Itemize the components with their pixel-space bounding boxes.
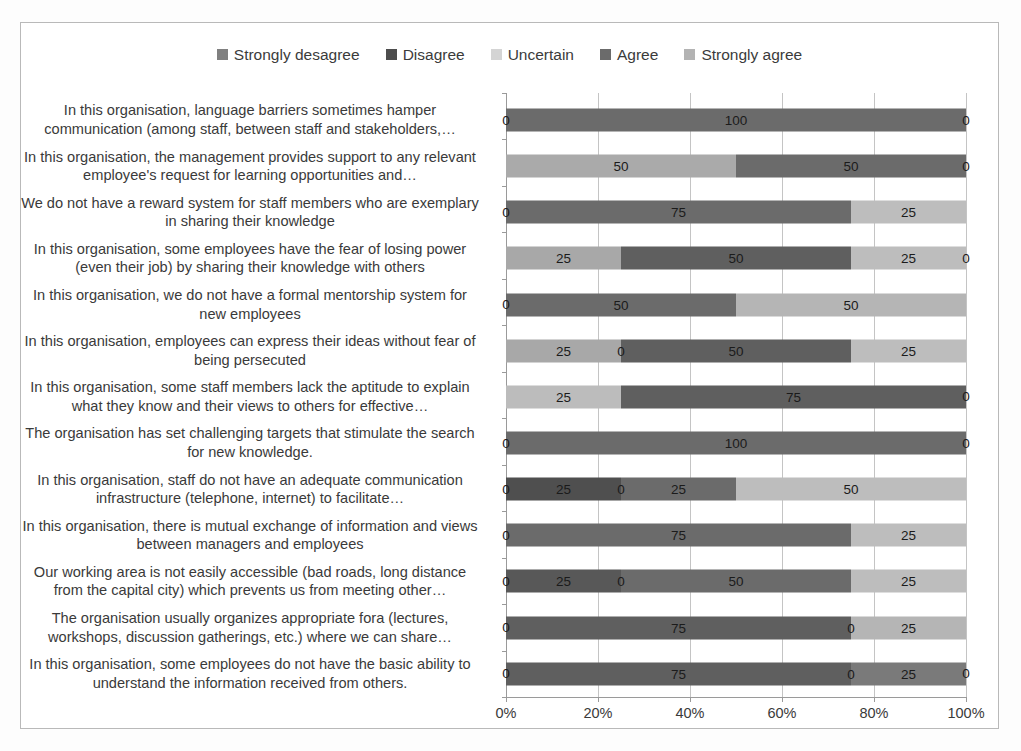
bar-segment[interactable]: 75 [506, 616, 851, 639]
bar-segment[interactable]: 25 [851, 616, 966, 639]
bar-segment[interactable]: 75 [506, 201, 851, 224]
bar-segment[interactable]: 75 [621, 385, 966, 408]
x-tick-label: 100% [947, 705, 984, 721]
legend-swatch-icon [386, 49, 397, 60]
bar-segment[interactable]: 50 [736, 478, 966, 501]
legend-item-2[interactable]: Uncertain [491, 47, 574, 63]
category-label: In this organisation, some staff members… [21, 378, 487, 415]
bar-area: 25025500 [506, 466, 966, 512]
segment-value-label: 0 [847, 620, 855, 635]
bar-area: 75250 [506, 189, 966, 235]
category-label: The organisation has set challenging tar… [21, 424, 487, 461]
bar-segment[interactable]: 50 [621, 570, 851, 593]
stacked-bar[interactable]: 25025500 [506, 478, 966, 501]
segment-value-label: 25 [671, 482, 686, 497]
bar-segment[interactable]: 25 [506, 247, 621, 270]
bar-segment[interactable]: 25 [851, 339, 966, 362]
bar-segment[interactable]: 75 [506, 524, 851, 547]
legend-item-4[interactable]: Strongly agree [684, 47, 802, 63]
chart-legend: Strongly desagreeDisagreeUncertainAgreeS… [21, 47, 998, 63]
bar-segment[interactable]: 25 [621, 478, 736, 501]
segment-value-label: 0 [617, 574, 625, 589]
segment-value-label: 75 [786, 389, 801, 404]
stacked-bar[interactable]: 2550250 [506, 247, 966, 270]
bar-segment[interactable]: 25 [851, 201, 966, 224]
bar-area: 10000 [506, 97, 966, 143]
bar-segment[interactable]: 25 [506, 478, 621, 501]
x-tick [690, 697, 691, 702]
segment-value-label: 50 [728, 251, 743, 266]
stacked-bar[interactable]: 75250 [506, 524, 966, 547]
plot-area: In this organisation, language barriers … [21, 85, 998, 728]
category-label: In this organisation, the management pro… [21, 148, 487, 185]
bar-segment[interactable]: 25 [851, 247, 966, 270]
stacked-bar[interactable]: 75250 [506, 201, 966, 224]
category-label: In this organisation, we do not have a f… [21, 286, 487, 323]
bar-segment[interactable]: 100 [506, 109, 966, 132]
bar-segment[interactable]: 50 [621, 247, 851, 270]
stacked-bar[interactable]: 10000 [506, 109, 966, 132]
segment-value-label: 0 [617, 343, 625, 358]
bar-segment[interactable]: 50 [506, 293, 736, 316]
chart-row: In this organisation, language barriers … [21, 97, 998, 143]
x-axis [506, 697, 966, 698]
bar-segment[interactable]: 25 [506, 570, 621, 593]
bar-left-cap-label: 0 [502, 482, 510, 497]
bar-segment[interactable]: 25 [506, 339, 621, 362]
legend-label: Strongly desagree [234, 47, 360, 63]
bar-segment[interactable]: 50 [736, 155, 966, 178]
bar-right-cap-label: 0 [962, 251, 970, 266]
bar-left-cap-label: 0 [502, 620, 510, 635]
bar-right-cap-label: 0 [962, 666, 970, 681]
segment-value-label: 75 [671, 666, 686, 681]
stacked-bar[interactable]: 7502500 [506, 662, 966, 685]
bar-right-cap-label: 0 [962, 159, 970, 174]
bar-left-cap-label: 0 [502, 528, 510, 543]
legend-swatch-icon [217, 49, 228, 60]
segment-value-label: 25 [901, 528, 916, 543]
x-tick [966, 697, 967, 702]
category-label: In this organisation, there is mutual ex… [21, 517, 487, 554]
stacked-bar[interactable]: 25750 [506, 385, 966, 408]
bar-left-cap-label: 0 [502, 297, 510, 312]
bar-segment[interactable]: 50 [621, 339, 851, 362]
bar-right-cap-label: 0 [962, 113, 970, 128]
segment-value-label: 25 [901, 574, 916, 589]
segment-value-label: 0 [617, 482, 625, 497]
segment-value-label: 25 [901, 205, 916, 220]
bar-segment[interactable]: 50 [736, 293, 966, 316]
bar-segment[interactable]: 50 [506, 155, 736, 178]
legend-item-0[interactable]: Strongly desagree [217, 47, 360, 63]
stacked-bar[interactable]: 50500 [506, 293, 966, 316]
segment-value-label: 100 [725, 113, 748, 128]
legend-label: Uncertain [508, 47, 574, 63]
bar-area: 7502500 [506, 651, 966, 697]
legend-item-1[interactable]: Disagree [386, 47, 465, 63]
segment-value-label: 50 [843, 482, 858, 497]
stacked-bar[interactable]: 25050250 [506, 570, 966, 593]
segment-value-label: 25 [556, 482, 571, 497]
stacked-bar[interactable]: 50500 [506, 155, 966, 178]
bar-segment[interactable]: 75 [506, 662, 851, 685]
bar-rows: In this organisation, language barriers … [21, 97, 998, 697]
stacked-bar[interactable]: 750250 [506, 616, 966, 639]
bar-left-cap-label: 0 [502, 666, 510, 681]
stacked-bar[interactable]: 2505025 [506, 339, 966, 362]
bar-segment[interactable]: 25 [506, 385, 621, 408]
bar-segment[interactable]: 100 [506, 432, 966, 455]
segment-value-label: 50 [728, 574, 743, 589]
segment-value-label: 25 [901, 666, 916, 681]
legend-swatch-icon [600, 49, 611, 60]
segment-value-label: 50 [613, 297, 628, 312]
bar-segment[interactable]: 25 [851, 524, 966, 547]
bar-segment[interactable]: 25 [851, 570, 966, 593]
segment-value-label: 50 [728, 343, 743, 358]
chart-row: Our working area is not easily accessibl… [21, 558, 998, 604]
bar-area: 2550250 [506, 235, 966, 281]
stacked-bar[interactable]: 10000 [506, 432, 966, 455]
segment-value-label: 75 [671, 528, 686, 543]
chart-page: Strongly desagreeDisagreeUncertainAgreeS… [0, 0, 1021, 751]
legend-item-3[interactable]: Agree [600, 47, 658, 63]
bar-segment[interactable]: 25 [851, 662, 966, 685]
category-label: Our working area is not easily accessibl… [21, 563, 487, 600]
